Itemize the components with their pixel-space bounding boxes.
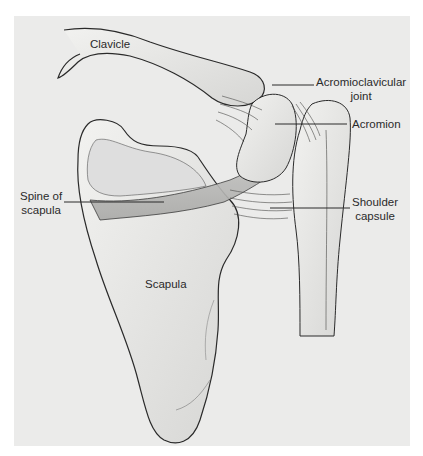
label-line-2: capsule [352, 209, 398, 223]
label-acromion: Acromion [352, 117, 401, 131]
label-line-1: Shoulder [352, 195, 398, 209]
label-spine-of-scapula: Spine of scapula [20, 189, 62, 217]
label-shoulder-capsule: Shoulder capsule [352, 195, 398, 223]
label-line-2: scapula [20, 203, 62, 217]
label-clavicle: Clavicle [90, 37, 130, 51]
label-line-1: Spine of [20, 189, 62, 203]
label-line-1: Acromioclavicular [316, 75, 406, 89]
shoulder-anatomy-illustration [0, 0, 423, 456]
label-scapula: Scapula [145, 277, 187, 291]
clavicle-bone [58, 29, 264, 107]
acromion-bone [237, 94, 297, 182]
humerus-bone [293, 100, 351, 336]
label-line-2: joint [316, 89, 406, 103]
label-acromioclavicular-joint: Acromioclavicular joint [316, 75, 406, 103]
